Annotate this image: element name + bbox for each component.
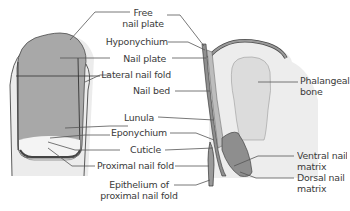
label-dorsal-line1: Dorsal nail xyxy=(297,173,347,184)
label-eponychium: Eponychium xyxy=(104,128,167,139)
dorsal-view xyxy=(10,33,100,176)
label-proximal-nail-fold: Proximal nail fold xyxy=(86,161,174,172)
label-cuticle: Cuticle xyxy=(104,145,161,156)
label-phalangeal-bone: Phalangeal bone xyxy=(300,76,350,97)
lunula-shape xyxy=(19,136,80,157)
label-dorsal-nail-matrix: Dorsal nail matrix xyxy=(297,173,347,194)
label-epithelium-line2: proximal nail fold xyxy=(98,191,180,202)
label-nail-plate: Nail plate xyxy=(104,54,166,65)
label-lateral-nail-fold: Lateral nail fold xyxy=(86,70,171,81)
label-free-line2: nail plate xyxy=(112,19,174,30)
label-ventral-line2: matrix xyxy=(297,162,347,173)
label-free-line1: Free xyxy=(112,8,174,19)
label-ventral-nail-matrix: Ventral nail matrix xyxy=(297,151,347,172)
label-epithelium-proximal-nail-fold: Epithelium of proximal nail fold xyxy=(98,180,180,201)
label-phalangeal-line1: Phalangeal xyxy=(300,76,350,87)
label-dorsal-line2: matrix xyxy=(297,184,347,195)
label-ventral-line1: Ventral nail xyxy=(297,151,347,162)
label-lunula: Lunula xyxy=(104,113,154,124)
label-nail-bed: Nail bed xyxy=(104,86,170,97)
label-free-nail-plate: Free nail plate xyxy=(112,8,174,29)
label-epithelium-line1: Epithelium of xyxy=(98,180,180,191)
label-hyponychium: Hyponychium xyxy=(104,37,168,48)
label-phalangeal-line2: bone xyxy=(300,87,350,98)
